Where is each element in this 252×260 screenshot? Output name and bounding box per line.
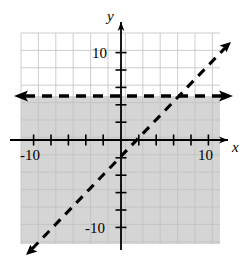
coordinate-plane-figure: x y -10 10 10 -10 xyxy=(0,0,252,260)
x-axis-label: x xyxy=(231,139,239,155)
x-tick-label-negative-ten: -10 xyxy=(20,147,40,163)
y-axis-label: y xyxy=(105,8,114,24)
y-tick-label-positive-ten: 10 xyxy=(92,45,107,61)
x-tick-label-positive-ten: 10 xyxy=(198,147,213,163)
y-tick-label-negative-ten: -10 xyxy=(85,220,105,236)
graph-canvas: x y -10 10 10 -10 xyxy=(0,0,252,260)
